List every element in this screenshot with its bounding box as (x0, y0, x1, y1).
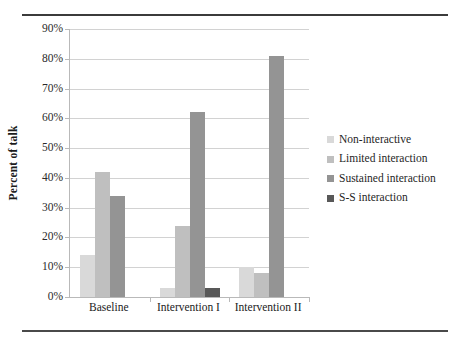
y-tick-mark (65, 118, 70, 119)
y-tick-label: 30% (42, 202, 63, 214)
gridline-0% (70, 297, 309, 298)
legend-item-limited-interaction: Limited interaction (327, 151, 457, 168)
bar-intervention-i-limited-interaction (175, 226, 190, 297)
legend-item-sustained-interaction: Sustained interaction (327, 170, 457, 187)
bar-intervention-i-s-s-interaction (205, 288, 220, 297)
bar-intervention-ii-sustained-interaction (269, 56, 284, 297)
y-tick-mark (65, 237, 70, 238)
bar-baseline-sustained-interaction (110, 196, 125, 297)
category-separator (309, 297, 310, 302)
legend-item-s-s-interaction: S-S interaction (327, 190, 457, 207)
legend-label: S-S interaction (339, 192, 408, 204)
bar-intervention-i-sustained-interaction (190, 112, 205, 297)
x-axis-label-intervention-i: Intervention I (149, 301, 229, 313)
legend-swatch-icon (327, 156, 334, 163)
y-tick-label: 0% (48, 291, 63, 303)
figure-bottom-rule (22, 330, 448, 332)
y-tick-label: 40% (42, 172, 63, 184)
y-tick-mark (65, 208, 70, 209)
figure-top-rule (22, 14, 448, 16)
x-axis-label-baseline: Baseline (69, 301, 149, 313)
legend-swatch-icon (327, 195, 334, 202)
legend-swatch-icon (327, 136, 334, 143)
y-tick-label: 80% (42, 53, 63, 65)
y-tick-mark (65, 59, 70, 60)
legend-label: Sustained interaction (339, 173, 436, 185)
legend-label: Limited interaction (339, 153, 427, 165)
y-tick-mark (65, 89, 70, 90)
legend-label: Non-interactive (339, 134, 411, 146)
plot-area: 0%10%20%30%40%50%60%70%80%90% (69, 29, 308, 297)
y-axis-title: Percent of talk (7, 126, 19, 201)
legend-swatch-icon (327, 175, 334, 182)
y-tick-mark (65, 178, 70, 179)
chart-legend: Non-interactiveLimited interactionSustai… (327, 131, 457, 209)
y-tick-mark (65, 297, 70, 298)
chart-figure: Percent of talk 0%10%20%30%40%50%60%70%8… (0, 0, 462, 350)
bar-intervention-ii-limited-interaction (254, 273, 269, 297)
bar-intervention-ii-non-interactive (239, 267, 254, 297)
y-tick-label: 50% (42, 142, 63, 154)
bar-intervention-i-non-interactive (160, 288, 175, 297)
y-tick-label: 70% (42, 83, 63, 95)
y-tick-label: 20% (42, 232, 63, 244)
bar-baseline-non-interactive (80, 255, 95, 297)
x-axis-label-intervention-ii: Intervention II (228, 301, 308, 313)
y-tick-mark (65, 267, 70, 268)
gridline-90% (70, 29, 309, 30)
legend-item-non-interactive: Non-interactive (327, 131, 457, 148)
y-tick-label: 10% (42, 261, 63, 273)
bar-baseline-limited-interaction (95, 172, 110, 297)
y-tick-mark (65, 29, 70, 30)
y-tick-label: 60% (42, 113, 63, 125)
y-tick-mark (65, 148, 70, 149)
y-tick-label: 90% (42, 23, 63, 35)
